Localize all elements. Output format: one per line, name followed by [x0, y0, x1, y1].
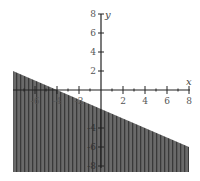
- y-axis-label: y: [104, 9, 111, 20]
- inequality-graph: -6 -4 -2 2 4 6 8 2 4 6 8 -4 -6 -8 x y: [0, 0, 200, 181]
- y-tick-label: 4: [90, 47, 96, 57]
- x-tick-label: -6: [31, 96, 40, 106]
- y-tick-label: 6: [90, 28, 96, 38]
- y-tick-label: 2: [90, 66, 96, 76]
- x-tick-label: 6: [164, 96, 170, 106]
- x-tick-label: 4: [142, 96, 148, 106]
- y-tick-label: -6: [87, 142, 96, 152]
- y-tick-label: -4: [87, 123, 96, 133]
- x-tick-label: 8: [186, 96, 192, 106]
- x-tick-label: -4: [53, 96, 62, 106]
- y-tick-label: -8: [87, 161, 96, 171]
- x-tick-label: 2: [120, 96, 126, 106]
- x-tick-label: -2: [75, 96, 84, 106]
- y-tick-label: 8: [90, 9, 96, 19]
- x-axis-label: x: [186, 76, 192, 87]
